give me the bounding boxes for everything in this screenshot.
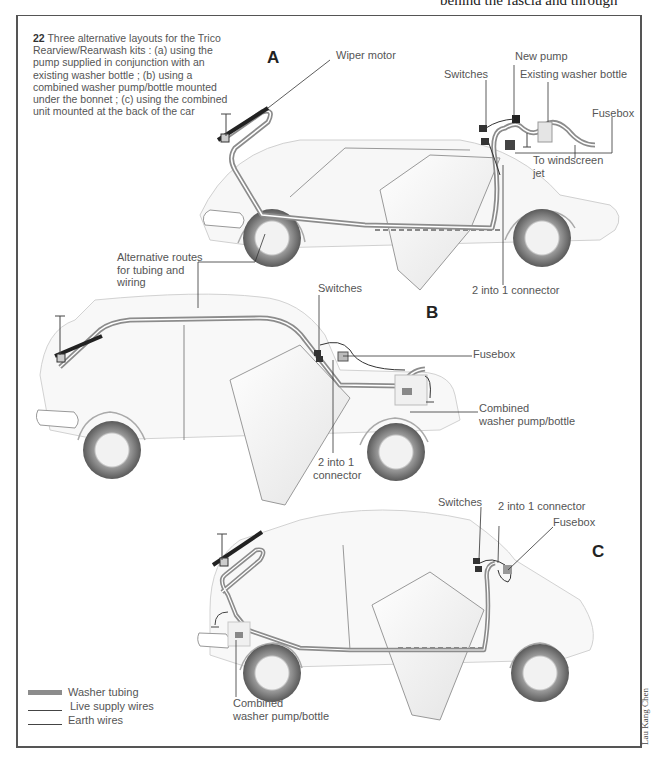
figure-number: 22: [33, 32, 45, 44]
car-c-illustration: [198, 507, 594, 720]
legend-swatch-earth: [28, 724, 62, 725]
label-fusebox-a: Fusebox: [592, 107, 634, 120]
label-switches-a: Switches: [444, 68, 488, 81]
legend: Washer tubing Live supply wires Earth wi…: [28, 685, 154, 727]
label-fusebox-c: Fusebox: [553, 516, 595, 529]
label-wiper-motor: Wiper motor: [336, 49, 396, 62]
label-combined-pump-bottle-b: Combined washer pump/bottle: [479, 402, 575, 427]
label-new-pump: New pump: [515, 50, 568, 63]
legend-swatch-tubing: [28, 690, 62, 695]
diagram-b-letter: B: [426, 303, 438, 323]
label-combined-pump-bottle-c: Combined washer pump/bottle: [233, 697, 329, 722]
legend-item-washer-tubing: Washer tubing: [28, 685, 154, 699]
caption-text: Three alternative layouts for the Trico …: [33, 32, 227, 117]
legend-swatch-live: [28, 710, 62, 711]
diagram-c-letter: C: [592, 542, 604, 562]
diagram-a-letter: A: [267, 48, 279, 68]
label-switches-c: Switches: [438, 496, 482, 509]
label-existing-washer-bottle: Existing washer bottle: [520, 68, 627, 81]
illustrator-credit: Lau Kang Chen: [640, 688, 650, 745]
label-two-into-one-a: 2 into 1 connector: [472, 284, 559, 297]
label-two-into-one-c: 2 into 1 connector: [498, 500, 585, 513]
label-to-windscreen-jet: To windscreen jet: [533, 154, 603, 179]
legend-item-live-supply: Live supply wires: [28, 699, 154, 713]
label-alternative-routes: Alternative routes for tubing and wiring: [117, 251, 203, 289]
figure-caption: 22 Three alternative layouts for the Tri…: [33, 32, 233, 117]
legend-item-earth: Earth wires: [28, 713, 154, 727]
label-fusebox-b: Fusebox: [473, 348, 515, 361]
label-two-into-one-b: 2 into 1 connector: [313, 456, 361, 481]
label-switches-b: Switches: [318, 282, 362, 295]
